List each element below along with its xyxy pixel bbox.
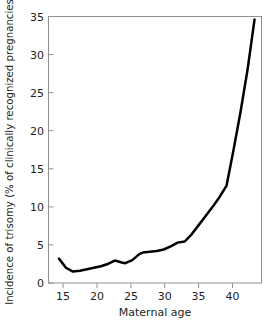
x-tick-label-20: 20 (90, 290, 104, 303)
plot-frame (49, 17, 262, 284)
y-tick-label-30: 30 (30, 49, 44, 62)
data-series-line (59, 20, 255, 272)
x-tick-label-40: 40 (226, 290, 240, 303)
y-tick-label-20: 20 (30, 125, 44, 138)
y-axis-title: Incidence of trisomy (% of clinically re… (4, 0, 15, 305)
y-tick-label-5: 5 (37, 239, 44, 252)
x-tick-label-35: 35 (192, 290, 206, 303)
trisomy-incidence-line-chart: 35 30 25 20 15 10 5 0 15 20 25 30 35 40 … (0, 0, 275, 321)
x-tick-label-15: 15 (56, 290, 70, 303)
y-tick-label-15: 15 (30, 163, 44, 176)
y-tick-label-35: 35 (30, 11, 44, 24)
chart-figure: 35 30 25 20 15 10 5 0 15 20 25 30 35 40 … (0, 0, 275, 321)
x-axis-ticks (63, 283, 232, 288)
y-tick-label-25: 25 (30, 87, 44, 100)
y-tick-label-10: 10 (30, 201, 44, 214)
x-tick-label-25: 25 (124, 290, 138, 303)
y-axis-ticks (49, 17, 54, 284)
y-tick-label-0: 0 (37, 277, 44, 290)
x-tick-label-30: 30 (158, 290, 172, 303)
x-axis-title: Maternal age (119, 306, 192, 319)
